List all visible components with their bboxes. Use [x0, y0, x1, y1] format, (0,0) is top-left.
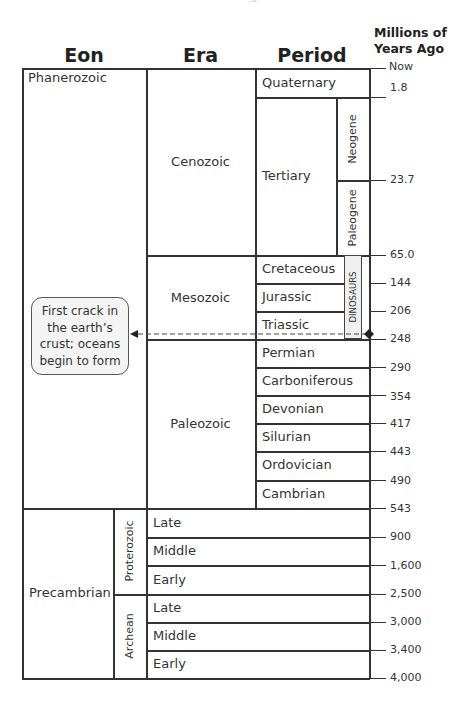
tick: [369, 97, 386, 98]
header-mya-line1: Millions of: [374, 25, 447, 41]
tick-label: 248: [390, 332, 411, 345]
tick-label: 1,600: [390, 559, 422, 572]
period-archean-early: Early: [153, 656, 186, 671]
tick: [369, 508, 386, 509]
tick-label: 3,000: [390, 615, 422, 628]
tick: [369, 180, 386, 181]
tick: [369, 367, 386, 368]
period-jurassic: Jurassic: [262, 289, 312, 304]
header-eon: Eon: [22, 44, 146, 66]
tick: [369, 311, 386, 312]
tick: [369, 622, 386, 623]
period-tertiary: Tertiary: [262, 168, 311, 183]
diamond-marker-icon: [364, 329, 374, 339]
row-line: [255, 451, 370, 453]
row-line: [255, 395, 370, 397]
tick-label: 65.0: [390, 248, 415, 261]
tick-label: 354: [390, 390, 411, 403]
eon-precambrian: Precambrian: [29, 585, 111, 600]
dashed-arrow-connector: [128, 326, 378, 342]
row-line: [255, 311, 345, 313]
tick: [369, 283, 386, 284]
header-period: Period: [255, 44, 369, 66]
table-left-border: [22, 68, 24, 679]
header-era: Era: [146, 44, 255, 66]
tick-label: 1.8: [390, 81, 408, 94]
tick-label: 3,400: [390, 643, 422, 656]
eon-divider: [22, 508, 370, 510]
era-cenozoic: Cenozoic: [146, 154, 255, 169]
row-line: [146, 650, 370, 652]
row-line: [146, 594, 370, 596]
eon-phanerozoic: Phanerozoic: [28, 70, 107, 85]
tick-label: 290: [390, 361, 411, 374]
tick-label: 144: [390, 276, 411, 289]
tick: [369, 565, 386, 566]
row-line: [255, 423, 370, 425]
tick-label: 490: [390, 474, 411, 487]
era-period-divider: [255, 68, 257, 509]
table-right-border: [369, 68, 371, 679]
period-archean-middle: Middle: [153, 628, 196, 643]
dinosaurs-label: DINOSAURS: [345, 257, 361, 337]
table-bottom-border: [22, 678, 370, 680]
period-devonian: Devonian: [262, 401, 324, 416]
period-proterozoic-late: Late: [153, 515, 181, 530]
tick-label: 417: [390, 417, 411, 430]
period-permian: Permian: [262, 345, 315, 360]
epoch-column-divider: [336, 97, 338, 256]
tick-label: Now: [389, 60, 413, 73]
header-mya-line2: Years Ago: [374, 41, 447, 57]
tick: [369, 594, 386, 595]
period-carboniferous: Carboniferous: [262, 373, 353, 388]
row-line: [146, 565, 370, 567]
callout-first-crack: First crack in the earth’s crust; oceans…: [31, 297, 129, 375]
tick-label: 2,500: [390, 587, 422, 600]
epoch-neogene: Neogene: [345, 99, 361, 179]
era-mesozoic: Mesozoic: [146, 290, 255, 305]
period-proterozoic-middle: Middle: [153, 543, 196, 558]
tick-label: 543: [390, 502, 411, 515]
tick: [369, 480, 386, 481]
callout-line: First crack in: [39, 303, 120, 320]
callout-line: the earth’s: [39, 320, 120, 337]
tick-label: 900: [390, 530, 411, 543]
period-proterozoic-early: Early: [153, 572, 186, 587]
tick: [369, 395, 386, 396]
tick: [369, 650, 386, 651]
tick: [369, 451, 386, 452]
row-line: [255, 283, 345, 285]
tick-label: 443: [390, 445, 411, 458]
row-line: [255, 367, 370, 369]
callout-line: crust; oceans: [39, 336, 120, 353]
era-paleozoic: Paleozoic: [146, 416, 255, 431]
row-line: [146, 537, 370, 539]
period-ordovician: Ordovician: [262, 457, 332, 472]
header-mya: Millions of Years Ago: [374, 25, 447, 57]
tick-now: [369, 68, 386, 69]
period-archean-late: Late: [153, 600, 181, 615]
epoch-paleogene: Paleogene: [345, 178, 361, 258]
row-line: [146, 622, 370, 624]
arrowhead-icon: [130, 330, 138, 338]
period-cretaceous: Cretaceous: [262, 261, 335, 276]
tick: [369, 537, 386, 538]
era-archean: Archean: [122, 586, 138, 686]
tick-label: 4,000: [390, 671, 422, 684]
row-line: [255, 480, 370, 482]
tick: [369, 678, 386, 679]
diagram-title: Eons of Geologic Time: [0, 0, 450, 2]
tick-label: 23.7: [390, 173, 415, 186]
period-cambrian: Cambrian: [262, 486, 325, 501]
period-quaternary: Quaternary: [262, 75, 336, 90]
tick: [369, 255, 386, 256]
tick: [369, 423, 386, 424]
era-divider-cenozoic-mesozoic: [146, 255, 256, 257]
tick-label: 206: [390, 304, 411, 317]
callout-line: begin to form: [39, 353, 120, 370]
period-silurian: Silurian: [262, 429, 311, 444]
